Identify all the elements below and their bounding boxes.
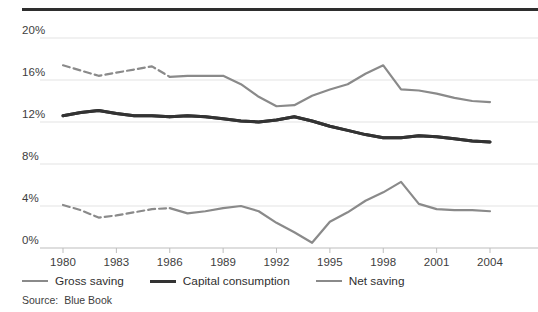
y-axis-label-8%: 8% [22, 150, 39, 162]
data-series-group [63, 65, 490, 242]
x-axis-label-1989: 1989 [210, 256, 236, 268]
series-line-net-saving [170, 182, 490, 243]
source-label: Source: [22, 294, 58, 306]
legend-line-swatch-icon [150, 280, 176, 283]
legend-line-swatch-icon [316, 280, 342, 282]
x-axis-label-1986: 1986 [157, 256, 183, 268]
series-line-dashed-net-saving [63, 205, 170, 218]
x-axis-label-1995: 1995 [317, 256, 343, 268]
y-axis-label-0%: 0% [22, 234, 39, 246]
x-tick-marks-group [63, 248, 490, 253]
gridlines-group [40, 38, 538, 248]
x-axis-label-2004: 2004 [477, 256, 503, 268]
plot-area: 0%4%8%12%16%20% 198019831986198919921995… [0, 0, 538, 268]
series-line-gross-saving [170, 65, 490, 106]
series-line-capital-consumption-full [63, 110, 490, 142]
legend-label: Capital consumption [183, 274, 290, 288]
x-axis-label-1992: 1992 [264, 256, 290, 268]
line-chart-svg [0, 0, 538, 268]
source-value: Blue Book [64, 294, 112, 306]
legend-item-net-saving[interactable]: Net saving [316, 274, 405, 288]
y-axis-label-20%: 20% [22, 24, 45, 36]
chart-legend: Gross savingCapital consumptionNet savin… [22, 272, 522, 290]
y-axis-label-4%: 4% [22, 192, 39, 204]
legend-item-capital-consumption[interactable]: Capital consumption [150, 274, 290, 288]
series-line-dashed-gross-saving [63, 65, 170, 77]
legend-item-gross-saving[interactable]: Gross saving [22, 274, 124, 288]
x-axis-label-1980: 1980 [50, 256, 76, 268]
x-axis-label-1998: 1998 [370, 256, 396, 268]
y-axis-label-12%: 12% [22, 108, 45, 120]
legend-line-swatch-icon [22, 280, 48, 282]
legend-label: Net saving [349, 274, 405, 288]
source-note: Source:Blue Book [22, 294, 112, 306]
x-axis-label-1983: 1983 [103, 256, 129, 268]
legend-label: Gross saving [55, 274, 124, 288]
x-axis-label-2001: 2001 [424, 256, 450, 268]
y-axis-label-16%: 16% [22, 66, 45, 78]
chart-figure: 0%4%8%12%16%20% 198019831986198919921995… [0, 0, 538, 312]
